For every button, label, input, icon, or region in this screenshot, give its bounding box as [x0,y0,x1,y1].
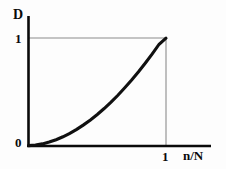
origin-tick-label-0: 0 [15,136,22,149]
x-axis-title: n/N [183,149,203,162]
data-curve [29,38,166,145]
x-axis-tick-label-1: 1 [162,150,169,163]
figure-canvas: D 1 0 1 n/N [0,0,226,169]
plot-svg [0,0,226,169]
y-axis-tick-label-1: 1 [15,32,22,45]
y-axis-title: D [13,8,23,22]
